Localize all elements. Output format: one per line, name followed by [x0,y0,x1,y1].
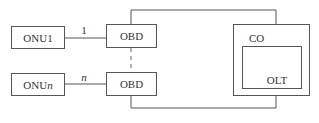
node-onu1: ONU1 [12,27,65,49]
node-co: CO OLT [234,25,310,96]
onun-label: ONUn [23,79,53,91]
obd-top-label: OBD [120,30,143,42]
obd-bottom-label: OBD [120,78,143,90]
edge-obd-top-co [131,10,276,24]
node-onun: ONUn [12,74,65,96]
co-label: CO [249,32,264,44]
edge-obd-bottom-co [131,95,276,108]
edge-label-n: n [81,71,87,83]
edge-label-1: 1 [81,24,87,36]
olt-label: OLT [267,74,288,86]
node-obd-top: OBD [107,25,157,48]
node-olt: OLT [243,47,302,89]
onu1-label: ONU1 [23,32,52,44]
node-obd-bottom: OBD [107,73,157,96]
pon-diagram: ONU1 ONUn 1 n OBD OBD CO OLT [0,0,319,123]
